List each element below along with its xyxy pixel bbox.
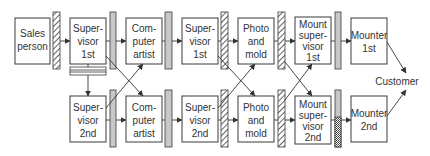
node-mounter-2nd: Mounter2nd <box>351 96 388 142</box>
node-mount-supervisor-1st: Mountsuper-visor1st <box>295 17 331 64</box>
gray-buffer-bar <box>165 90 172 147</box>
svg-text:Com-puterartist: Com-puterartist <box>132 102 156 139</box>
gray-buffer-bar <box>110 12 116 69</box>
node-computer-artist-1: Com-puterartist <box>126 18 162 64</box>
svg-text:Com-puterartist: Com-puterartist <box>132 23 156 60</box>
node-supervisor-1st-b: Super-visor1st <box>182 18 218 64</box>
node-photo-and-mold-1: Photoandmold <box>238 18 274 64</box>
hatched-buffer-bar <box>221 90 228 147</box>
node-mounter-1st: Mounter1st <box>351 18 388 64</box>
gray-grid-buffer-bar <box>335 90 341 147</box>
node-supervisor-2nd-b: Super-visor2nd <box>182 96 218 142</box>
process-flow-diagram: Salesperson Super-visor1st Com-puterarti… <box>0 0 430 156</box>
hatched-buffer-bar <box>278 12 285 69</box>
node-customer: Customer <box>375 76 419 87</box>
triple-line-buffer-bar <box>70 67 106 75</box>
gray-buffer-bar <box>335 12 341 69</box>
hatched-buffer-bar <box>278 90 285 147</box>
arrow-to-customer <box>387 90 406 116</box>
node-mount-supervisor-2nd: Mountsuper-visor2nd <box>295 96 331 144</box>
hatched-buffer-bar <box>53 12 60 69</box>
arrow-to-customer <box>387 42 406 73</box>
cross-arrow <box>285 64 312 100</box>
node-computer-artist-2: Com-puterartist <box>126 96 162 142</box>
gray-buffer-bar <box>110 90 116 147</box>
gray-buffer-bar <box>165 12 172 69</box>
node-supervisor-1st-a: Super-visor1st <box>70 18 106 64</box>
node-sales-person: Salesperson <box>15 18 50 64</box>
cross-arrow <box>285 62 312 96</box>
node-supervisor-2nd-a: Super-visor2nd <box>70 96 106 142</box>
node-photo-and-mold-2: Photoandmold <box>238 96 274 142</box>
